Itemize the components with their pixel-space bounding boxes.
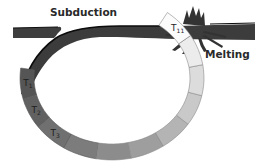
diagram-canvas: T1T2T3T11 Subduction Melting [0,0,268,168]
melting-label: Melting [205,48,250,60]
subduction-label: Subduction [50,6,117,18]
segment-t4 [64,134,99,159]
segment-t9 [188,65,204,96]
subduction-diagram: T1T2T3T11 Subduction Melting [0,0,268,168]
overriding-plate [13,27,61,38]
segment-t5 [97,143,132,161]
